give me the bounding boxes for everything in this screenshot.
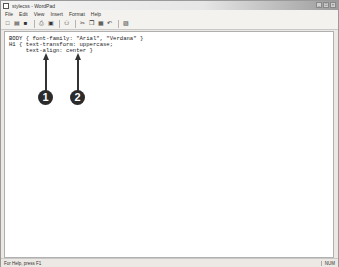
- menu-view[interactable]: View: [34, 11, 45, 17]
- menu-file[interactable]: File: [5, 11, 13, 17]
- cut-icon[interactable]: ✂: [79, 20, 86, 27]
- status-help-text: For Help, press F1: [4, 261, 41, 266]
- toolbar: □ ▤ ■ ⎙ ▣ ⚇ ✂ ❐ ▦ ↶ ▨: [1, 18, 338, 30]
- maximize-button[interactable]: □: [323, 2, 329, 8]
- callout-1-arrow: [45, 59, 47, 91]
- menu-help[interactable]: Help: [91, 11, 101, 17]
- paste-icon[interactable]: ▦: [97, 20, 104, 27]
- document-area[interactable]: BODY { font-family: "Arial", "Verdana" }…: [4, 31, 334, 258]
- wordpad-window: stylecss - WordPad _ □ × File Edit View …: [0, 0, 339, 267]
- print-preview-icon[interactable]: ▣: [47, 20, 54, 27]
- copy-icon[interactable]: ❐: [88, 20, 95, 27]
- close-button[interactable]: ×: [330, 2, 336, 8]
- status-bar: For Help, press F1 NUM: [1, 258, 338, 267]
- window-controls: _ □ ×: [316, 2, 336, 8]
- callout-badge-2: 2: [70, 90, 85, 105]
- minimize-button[interactable]: _: [316, 2, 322, 8]
- window-title: stylecss - WordPad: [12, 3, 55, 9]
- insert-date-icon[interactable]: ▨: [122, 20, 129, 27]
- menu-bar: File Edit View Insert Format Help: [1, 10, 338, 18]
- wordpad-app-icon[interactable]: [3, 3, 9, 9]
- title-bar[interactable]: stylecss - WordPad _ □ ×: [1, 1, 338, 10]
- save-icon[interactable]: ■: [22, 20, 29, 27]
- toolbar-separator: [118, 20, 119, 28]
- new-icon[interactable]: □: [4, 20, 11, 27]
- find-icon[interactable]: ⚇: [63, 20, 70, 27]
- callout-badge-1: 1: [38, 90, 53, 105]
- toolbar-separator: [59, 20, 60, 28]
- toolbar-separator: [75, 20, 76, 28]
- undo-icon[interactable]: ↶: [106, 20, 113, 27]
- callout-2-arrow: [77, 59, 79, 91]
- open-icon[interactable]: ▤: [13, 20, 20, 27]
- menu-insert[interactable]: Insert: [50, 11, 63, 17]
- menu-edit[interactable]: Edit: [19, 11, 28, 17]
- menu-format[interactable]: Format: [69, 11, 85, 17]
- toolbar-separator: [34, 20, 35, 28]
- print-icon[interactable]: ⎙: [38, 20, 45, 27]
- num-lock-indicator: NUM: [321, 261, 335, 266]
